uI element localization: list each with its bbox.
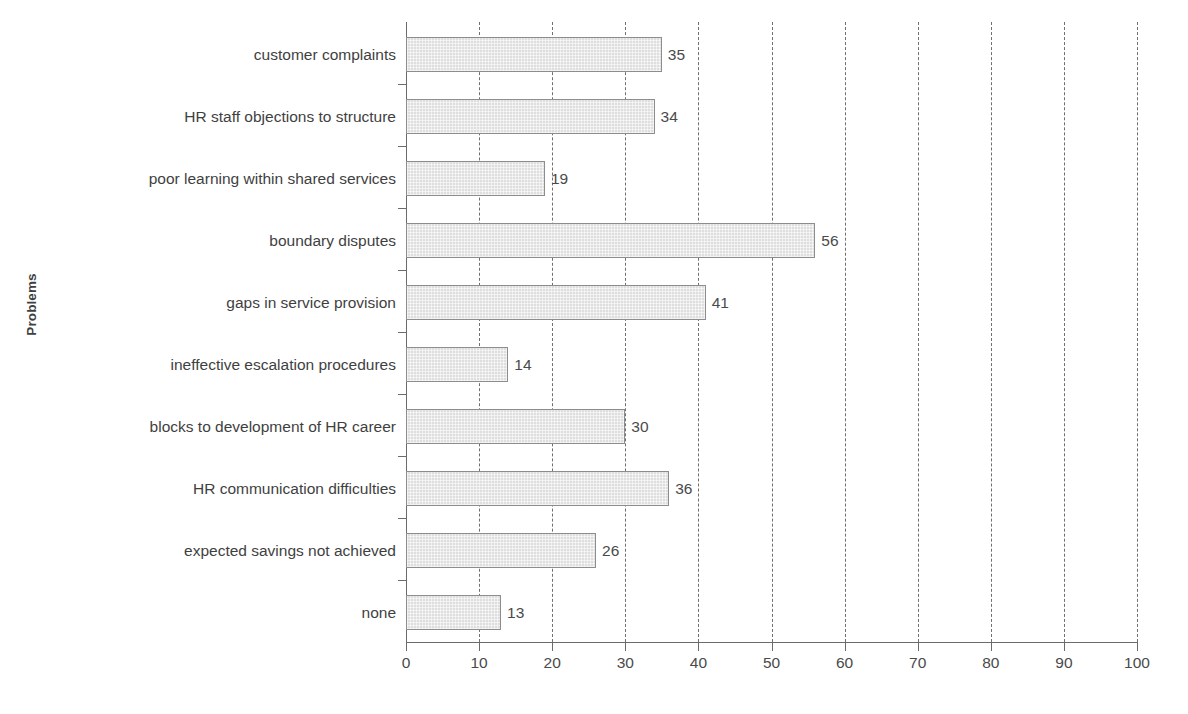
category-label: boundary disputes	[0, 223, 396, 258]
bar	[406, 347, 508, 382]
category-label: gaps in service provision	[0, 285, 396, 320]
bar-value-label: 36	[675, 471, 692, 506]
bar	[406, 161, 545, 196]
bar-value-label: 30	[631, 409, 648, 444]
category-label: HR communication difficulties	[0, 471, 396, 506]
bar-value-label: 56	[821, 223, 838, 258]
x-axis-tick-label: 30	[617, 654, 634, 672]
y-axis-tick	[398, 456, 406, 457]
x-axis-tick-label: 20	[544, 654, 561, 672]
category-label: HR staff objections to structure	[0, 99, 396, 134]
y-axis-tick	[398, 146, 406, 147]
y-axis-tick	[398, 208, 406, 209]
x-axis-tick-label: 0	[402, 654, 411, 672]
x-axis-tick-label: 50	[763, 654, 780, 672]
x-axis-tick	[918, 642, 919, 651]
bar	[406, 471, 669, 506]
category-label: expected savings not achieved	[0, 533, 396, 568]
x-axis-tick	[1137, 642, 1138, 651]
y-axis-tick	[398, 394, 406, 395]
gridline	[991, 22, 992, 642]
bar-value-label: 19	[551, 161, 568, 196]
bar	[406, 99, 655, 134]
x-axis-tick-label: 40	[690, 654, 707, 672]
y-axis-tick	[398, 518, 406, 519]
gridline	[698, 22, 699, 642]
x-axis-tick	[625, 642, 626, 651]
x-axis-tick-label: 100	[1124, 654, 1150, 672]
x-axis-tick	[479, 642, 480, 651]
bar-value-label: 14	[514, 347, 531, 382]
x-axis-tick	[772, 642, 773, 651]
category-label: customer complaints	[0, 37, 396, 72]
bar-value-label: 26	[602, 533, 619, 568]
gridline	[772, 22, 773, 642]
gridline	[845, 22, 846, 642]
category-label: none	[0, 595, 396, 630]
x-axis-tick-label: 80	[982, 654, 999, 672]
bar	[406, 285, 706, 320]
bar-value-label: 34	[661, 99, 678, 134]
bar	[406, 595, 501, 630]
bar	[406, 533, 596, 568]
x-axis-tick	[698, 642, 699, 651]
x-axis-tick	[552, 642, 553, 651]
gridline	[918, 22, 919, 642]
x-axis-tick-label: 70	[909, 654, 926, 672]
y-axis-tick	[398, 332, 406, 333]
bar	[406, 223, 815, 258]
y-axis-tick	[398, 84, 406, 85]
bar	[406, 37, 662, 72]
bar-value-label: 35	[668, 37, 685, 72]
y-axis-tick	[398, 270, 406, 271]
category-label: poor learning within shared services	[0, 161, 396, 196]
x-axis-tick	[1064, 642, 1065, 651]
bar-value-label: 41	[712, 285, 729, 320]
category-label: ineffective escalation procedures	[0, 347, 396, 382]
gridline	[1064, 22, 1065, 642]
bar	[406, 409, 625, 444]
x-axis-tick-label: 10	[470, 654, 487, 672]
bar-chart: Problems 0102030405060708090100 customer…	[0, 0, 1188, 714]
category-label: blocks to development of HR career	[0, 409, 396, 444]
gridline	[1137, 22, 1138, 642]
y-axis-tick	[398, 580, 406, 581]
bar-value-label: 13	[507, 595, 524, 630]
x-axis-tick	[845, 642, 846, 651]
x-axis-tick-label: 60	[836, 654, 853, 672]
x-axis-tick	[406, 642, 407, 651]
x-axis-tick-label: 90	[1055, 654, 1072, 672]
x-axis-tick	[991, 642, 992, 651]
